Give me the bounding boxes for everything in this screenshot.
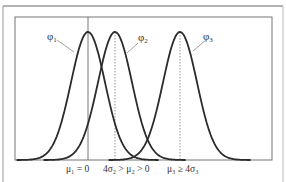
mu3-axis-label: μ₃ ≥ 4σ₃	[167, 164, 199, 174]
gaussian-curves	[17, 32, 251, 160]
phi1-label: φ1	[47, 30, 57, 44]
phi2-label: φ2	[138, 31, 148, 45]
phi1-pointer	[57, 40, 74, 52]
gaussian-diagram: φ1 φ2 φ3 μ₁ = 0 4σ₂ > μ₂ > 0 μ₃ ≥ 4σ₃	[0, 0, 286, 182]
phi3-label: φ3	[203, 30, 213, 44]
phi2-pointer	[127, 43, 138, 53]
mu2-axis-label: 4σ₂ > μ₂ > 0	[103, 164, 150, 174]
mu1-axis-label: μ₁ = 0	[66, 164, 90, 174]
